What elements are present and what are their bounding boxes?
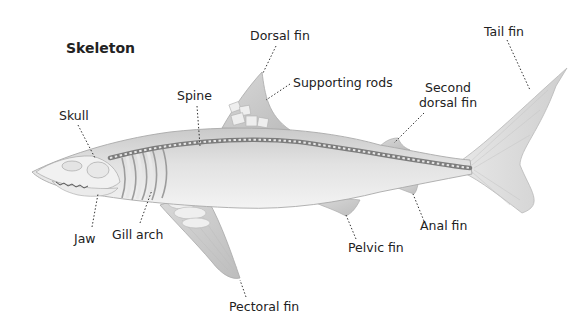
label-spine: Spine <box>177 88 212 103</box>
label-gill-arch: Gill arch <box>112 227 163 242</box>
label-anal-fin: Anal fin <box>420 218 467 233</box>
shark-skeleton-diagram: Skeleton Dorsal fin Supporting rods Tail… <box>0 0 577 327</box>
label-pelvic-fin: Pelvic fin <box>348 240 404 255</box>
label-second-dorsal-fin-line2: dorsal fin <box>411 95 485 110</box>
diagram-title: Skeleton <box>66 40 135 56</box>
label-second-dorsal-fin-line1: Second <box>411 80 485 95</box>
label-supporting-rods: Supporting rods <box>293 75 393 90</box>
label-pectoral-fin: Pectoral fin <box>229 299 299 314</box>
label-second-dorsal-fin: Second dorsal fin <box>411 80 485 110</box>
label-skull: Skull <box>59 108 89 123</box>
label-dorsal-fin: Dorsal fin <box>250 28 310 43</box>
label-tail-fin: Tail fin <box>484 24 524 39</box>
label-jaw: Jaw <box>74 231 96 246</box>
